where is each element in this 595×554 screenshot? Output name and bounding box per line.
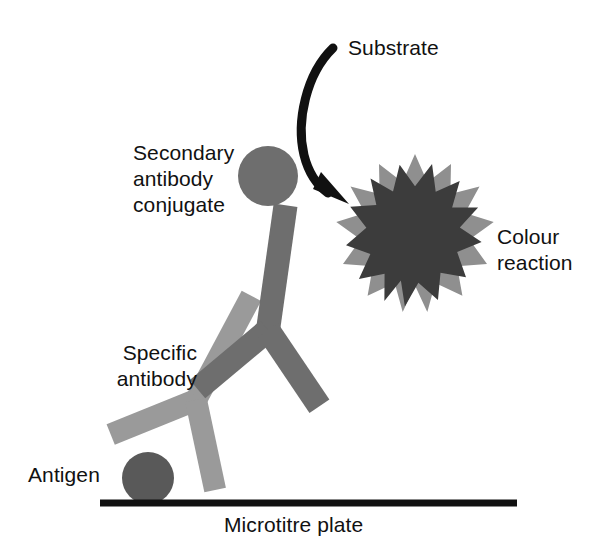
label-secondary-antibody-conjugate: Secondary antibody conjugate — [133, 140, 234, 218]
colour-reaction-burst — [329, 147, 498, 322]
secondary-antibody-arm-right — [258, 323, 329, 413]
label-specific-antibody: Specific antibody — [55, 340, 197, 392]
substrate-arrow — [301, 48, 349, 204]
enzyme-conjugate-circle — [238, 146, 298, 206]
substrate-arrow-head — [313, 172, 349, 204]
specific-antibody-arm-right — [185, 398, 226, 493]
secondary-antibody-shape — [188, 195, 356, 415]
label-antigen: Antigen — [28, 462, 100, 488]
specific-antibody-arm-left — [107, 390, 201, 445]
antigen-circle — [122, 452, 174, 504]
label-microtitre-plate: Microtitre plate — [224, 512, 363, 538]
elisa-diagram: Secondary antibody conjugate Specific an… — [0, 0, 595, 554]
secondary-antibody-stem — [256, 204, 298, 336]
label-colour-reaction: Colour reaction — [497, 224, 573, 276]
label-substrate: Substrate — [348, 35, 439, 61]
substrate-arrow-curve — [301, 48, 333, 193]
